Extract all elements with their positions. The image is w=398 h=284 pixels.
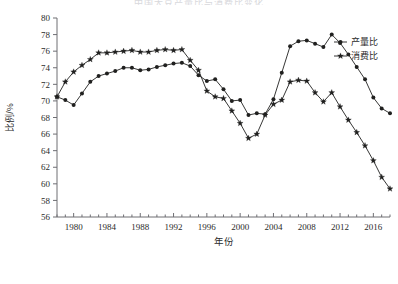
data-point-star [304, 78, 310, 84]
data-point-star [179, 46, 185, 52]
chart-container: 中国大豆产量比与消费比变化 56586062646668707274767880… [0, 0, 398, 284]
legend-marker-circle [339, 40, 343, 44]
data-point-star [345, 117, 351, 123]
data-point-star [229, 108, 235, 114]
data-point-star [354, 129, 360, 135]
data-point-circle [321, 45, 325, 49]
data-point-star [137, 49, 143, 55]
data-point-circle [205, 79, 209, 83]
y-axis-title: 比例/% [4, 103, 15, 132]
x-tick-label: 1996 [198, 222, 217, 232]
data-point-circle [105, 72, 109, 76]
legend-layer: 产量比消费比 [334, 36, 378, 61]
data-point-circle [222, 87, 226, 91]
data-point-star [246, 135, 252, 141]
data-point-circle [313, 42, 317, 46]
data-point-star [71, 69, 77, 75]
data-point-star [271, 101, 277, 107]
y-tick-label: 62 [41, 162, 50, 172]
data-point-star [121, 48, 127, 54]
data-point-circle [63, 98, 67, 102]
data-point-circle [296, 39, 300, 43]
data-point-circle [230, 99, 234, 103]
data-point-circle [97, 74, 101, 78]
data-point-circle [288, 44, 292, 48]
data-point-star [162, 46, 168, 52]
data-point-circle [147, 67, 151, 71]
data-point-circle [180, 61, 184, 65]
data-point-star [379, 174, 385, 180]
data-point-circle [330, 33, 334, 37]
data-point-circle [113, 69, 117, 73]
y-tick-label: 78 [41, 30, 51, 40]
y-tick-label: 64 [41, 146, 51, 156]
data-point-circle [80, 91, 84, 95]
data-point-circle [213, 77, 217, 81]
data-point-star [337, 104, 343, 110]
data-point-circle [280, 71, 284, 75]
data-point-circle [371, 96, 375, 100]
legend-item-2[interactable]: 消费比 [334, 50, 378, 61]
x-axis-title: 年份 [214, 236, 234, 247]
data-point-circle [388, 111, 392, 115]
y-tick-label: 66 [41, 129, 51, 139]
data-point-star [171, 47, 177, 53]
data-point-star [279, 97, 285, 103]
data-point-circle [130, 66, 134, 70]
legend-label: 消费比 [351, 50, 378, 61]
x-tick-label: 2012 [331, 222, 349, 232]
data-point-star [129, 47, 135, 53]
x-tick-label: 1988 [131, 222, 150, 232]
data-point-circle [122, 66, 126, 70]
y-tick-label: 56 [41, 212, 51, 222]
data-point-star [237, 120, 243, 126]
x-tick-label: 2008 [298, 222, 317, 232]
legend-item-1[interactable]: 产量比 [334, 36, 378, 47]
series-line-2 [57, 50, 390, 189]
y-tick-label: 58 [41, 196, 51, 206]
data-point-circle [355, 65, 359, 69]
data-point-star [154, 47, 160, 53]
data-point-circle [380, 106, 384, 110]
x-tick-label: 2016 [364, 222, 383, 232]
data-point-star [295, 77, 301, 83]
data-point-star [362, 143, 368, 149]
data-point-star [104, 50, 110, 56]
series-1 [55, 33, 392, 117]
data-point-star [370, 158, 376, 164]
data-point-circle [155, 65, 159, 69]
data-point-star [221, 95, 227, 101]
legend-marker-star [338, 53, 344, 59]
data-point-circle [172, 62, 176, 66]
data-point-circle [246, 113, 250, 117]
data-point-circle [363, 77, 367, 81]
data-point-circle [271, 97, 275, 101]
x-tick-label: 1984 [98, 222, 117, 232]
data-point-star [287, 79, 293, 85]
data-point-star [146, 49, 152, 55]
data-point-star [212, 94, 218, 100]
x-tick-label: 1980 [65, 222, 84, 232]
data-point-star [254, 131, 260, 137]
data-point-circle [88, 80, 92, 84]
y-tick-label: 80 [41, 13, 51, 23]
y-tick-label: 68 [41, 113, 51, 123]
chart-canvas: 5658606264666870727476788019801984198819… [0, 0, 398, 284]
data-point-circle [163, 63, 167, 67]
y-tick-label: 60 [41, 179, 51, 189]
y-tick-label: 74 [41, 63, 51, 73]
y-tick-label: 76 [41, 46, 51, 56]
data-point-circle [188, 64, 192, 68]
data-point-circle [255, 111, 259, 115]
data-point-star [112, 49, 118, 55]
x-tick-label: 2004 [264, 222, 283, 232]
x-tick-label: 2000 [231, 222, 250, 232]
data-point-circle [238, 98, 242, 102]
data-point-circle [305, 38, 309, 42]
y-tick-label: 70 [41, 96, 51, 106]
data-point-circle [72, 103, 76, 107]
x-tick-label: 1992 [165, 222, 183, 232]
y-tick-label: 72 [41, 80, 50, 90]
legend-label: 产量比 [351, 36, 378, 47]
data-point-circle [138, 68, 142, 72]
